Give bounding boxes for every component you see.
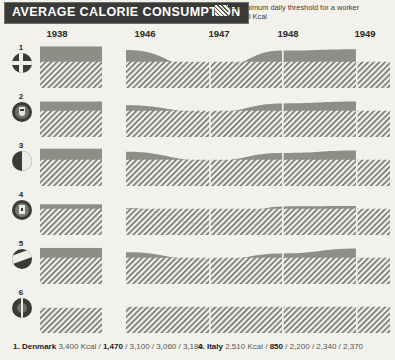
- flag-crest-square-icon: [12, 200, 32, 220]
- series-plot-1: [40, 44, 390, 88]
- series-plot-5: [40, 240, 390, 284]
- series-row-3: 3: [0, 142, 395, 186]
- series-row-6: 6: [0, 289, 395, 333]
- year-label-1948: 1948: [277, 28, 298, 39]
- title-bar: AVERAGE CALORIE CONSUMPTION: [4, 2, 249, 24]
- series-plot-6: [40, 289, 390, 333]
- area-chart-6: [40, 289, 390, 333]
- area-chart-5: [40, 240, 390, 284]
- series-index-1: 1: [6, 43, 36, 52]
- area-chart-4: [40, 191, 390, 235]
- chart-body: 1 2 3 4 5 6: [0, 44, 395, 336]
- flag-sunburst-icon: [12, 298, 32, 318]
- caption-index-4: 4.: [198, 342, 205, 351]
- legend-line-2: 2,150 Kcal: [232, 12, 359, 21]
- caption-rest-1: / 3,100 / 3,060 / 3,180: [123, 342, 203, 351]
- series-icon-cell-1: 1: [6, 44, 36, 88]
- series-icon-cell-4: 4: [6, 191, 36, 235]
- series-index-5: 5: [6, 239, 36, 248]
- series-index-3: 3: [6, 141, 36, 150]
- caption: 1. Denmark 3,400 Kcal / 1,470 / 3,100 / …: [0, 342, 395, 360]
- caption-index-1: 1.: [13, 342, 20, 351]
- year-label-1949: 1949: [354, 28, 375, 39]
- legend-line-1: = minimum daily threshold for a worker: [232, 3, 359, 12]
- series-row-2: 2: [0, 93, 395, 137]
- series-index-2: 2: [6, 92, 36, 101]
- series-plot-2: [40, 93, 390, 137]
- series-icon-cell-3: 3: [6, 142, 36, 186]
- series-icon-cell-6: 6: [6, 289, 36, 333]
- series-plot-3: [40, 142, 390, 186]
- flag-diagonal-icon: [12, 249, 32, 269]
- series-icon-cell-2: 2: [6, 93, 36, 137]
- area-chart-1: [40, 44, 390, 88]
- flag-crest-icon: [12, 102, 32, 122]
- series-row-5: 5: [0, 240, 395, 284]
- page-title: AVERAGE CALORIE CONSUMPTION: [12, 6, 241, 19]
- flag-vertical-bicolor-icon: [12, 151, 32, 171]
- caption-values-1: 3,400 Kcal /: [58, 342, 102, 351]
- year-axis: 1938 1946 1947 1948 1949: [0, 28, 395, 44]
- caption-values-4: 2,510 Kcal /: [225, 342, 269, 351]
- caption-rest-4: / 2,200 / 2,340 / 2,370: [283, 342, 363, 351]
- year-label-1946: 1946: [134, 28, 155, 39]
- caption-entry-denmark: 1. Denmark 3,400 Kcal / 1,470 / 3,100 / …: [13, 342, 203, 351]
- series-row-4: 4: [0, 191, 395, 235]
- area-chart-3: [40, 142, 390, 186]
- year-label-1947: 1947: [208, 28, 229, 39]
- legend: = minimum daily threshold for a worker 2…: [215, 3, 395, 21]
- flag-denmark-cross-icon: [12, 53, 32, 73]
- year-label-1938: 1938: [46, 28, 67, 39]
- caption-low-1: 1,470: [103, 342, 123, 351]
- series-row-1: 1: [0, 44, 395, 88]
- caption-name-4: Italy: [207, 342, 223, 351]
- caption-entry-italy: 4. Italy 2,510 Kcal / 850 / 2,200 / 2,34…: [198, 342, 363, 351]
- caption-name-1: Denmark: [22, 342, 56, 351]
- series-icon-cell-5: 5: [6, 240, 36, 284]
- hatch-swatch-icon: [215, 5, 228, 16]
- area-chart-2: [40, 93, 390, 137]
- header: AVERAGE CALORIE CONSUMPTION = minimum da…: [0, 0, 395, 26]
- series-index-6: 6: [6, 288, 36, 297]
- series-index-4: 4: [6, 190, 36, 199]
- legend-text: = minimum daily threshold for a worker 2…: [232, 3, 359, 21]
- series-plot-4: [40, 191, 390, 235]
- caption-low-4: 850: [270, 342, 283, 351]
